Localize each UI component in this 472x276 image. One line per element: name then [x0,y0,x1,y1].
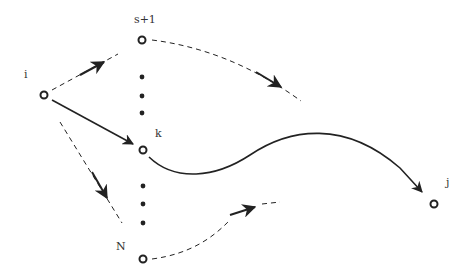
edge-s1-continuation [152,40,301,101]
ellipsis-lower [141,184,146,226]
edge-i-to-N [60,122,122,223]
node-j [431,201,438,208]
label-s1: s+1 [134,13,156,26]
label-k: k [155,127,162,140]
path-diagram: i s+1 k N j [0,0,472,276]
edge-N-continuation [152,202,280,259]
label-N: N [116,240,126,253]
label-i: i [24,68,28,81]
edge-i-to-s1 [52,54,118,90]
edge-k-to-j [149,133,422,192]
edge-i-to-k [52,100,133,144]
node-i [41,92,48,99]
node-N [140,256,147,263]
ellipsis-upper [140,75,145,116]
node-k [140,147,147,154]
node-s1 [139,37,146,44]
label-j: j [444,176,449,189]
